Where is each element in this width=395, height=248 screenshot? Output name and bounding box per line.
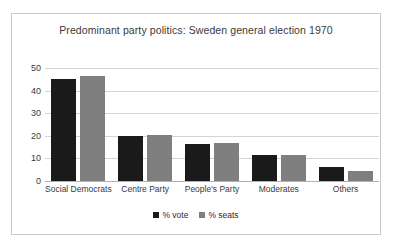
bar-groups: [45, 68, 379, 181]
legend-item[interactable]: % seats: [199, 210, 238, 220]
bar[interactable]: [147, 135, 172, 181]
chart-frame: Predominant party politics: Sweden gener…: [11, 13, 381, 235]
x-axis-label: Centre Party: [112, 184, 179, 194]
chart-title: Predominant party politics: Sweden gener…: [12, 24, 380, 36]
legend-swatch-icon: [153, 212, 159, 218]
bar[interactable]: [214, 143, 239, 181]
bar[interactable]: [281, 155, 306, 181]
y-tick-10: 10: [15, 153, 41, 163]
bar[interactable]: [51, 79, 76, 181]
x-axis-label: Moderates: [245, 184, 312, 194]
y-tick-30: 30: [15, 108, 41, 118]
x-axis-label: Others: [312, 184, 379, 194]
legend-label: % vote: [162, 210, 188, 220]
legend-item[interactable]: % vote: [153, 210, 188, 220]
y-tick-50: 50: [15, 63, 41, 73]
x-axis-labels: Social DemocratsCentre PartyPeople's Par…: [45, 184, 379, 194]
legend-swatch-icon: [199, 212, 205, 218]
y-axis-ticks: 0 10 20 30 40 50: [12, 68, 41, 181]
bar[interactable]: [118, 136, 143, 181]
bar-group: [112, 68, 179, 181]
x-axis-line: [45, 181, 379, 182]
bar[interactable]: [185, 144, 210, 181]
bar-group: [245, 68, 312, 181]
bar[interactable]: [319, 167, 344, 181]
bar[interactable]: [80, 76, 105, 181]
bar[interactable]: [348, 171, 373, 181]
x-axis-label: People's Party: [179, 184, 246, 194]
chart-legend: % vote% seats: [12, 210, 380, 220]
legend-label: % seats: [208, 210, 238, 220]
y-tick-0: 0: [15, 176, 41, 186]
bar[interactable]: [252, 155, 277, 181]
x-axis-label: Social Democrats: [45, 184, 112, 194]
y-tick-40: 40: [15, 86, 41, 96]
bar-group: [179, 68, 246, 181]
bar-group: [312, 68, 379, 181]
bar-group: [45, 68, 112, 181]
y-tick-20: 20: [15, 131, 41, 141]
